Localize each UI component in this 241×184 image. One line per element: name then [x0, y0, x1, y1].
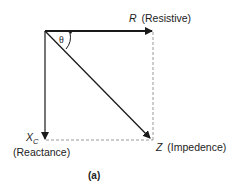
figure-caption: (a)	[88, 170, 100, 181]
angle-label: θ	[59, 34, 64, 45]
impedance-label: Z (Impedence)	[155, 141, 226, 153]
reactance-label: (Reactance)	[13, 146, 70, 158]
reactance-symbol: XC	[25, 131, 39, 146]
impedance-diagram: θ R (Resistive) XC (Reactance) Z (Impede…	[0, 0, 241, 184]
resistive-label: R (Resistive)	[129, 12, 191, 24]
angle-arc	[66, 33, 71, 49]
impedance-vector	[45, 31, 150, 138]
